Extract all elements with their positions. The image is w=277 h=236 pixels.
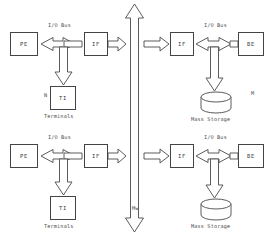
- marker-m: M: [251, 90, 254, 96]
- node-label: BE: [247, 153, 255, 159]
- node-if-bottom-left[interactable]: IF: [84, 144, 108, 168]
- node-label: IF: [178, 41, 186, 47]
- node-ti-bottom[interactable]: TI: [50, 196, 76, 220]
- bus-label-io-top-left: I/O Bus: [48, 22, 71, 28]
- bus-label-io-bottom-right: I/O Bus: [204, 134, 227, 140]
- node-label: IF: [92, 41, 100, 47]
- node-pe-top[interactable]: PE: [10, 32, 38, 56]
- node-label: BE: [247, 41, 255, 47]
- caption-mass-storage-bottom: Mass Storage: [191, 223, 230, 229]
- mass-storage-cylinder-bottom: [201, 199, 231, 220]
- node-if-top-right[interactable]: IF: [170, 32, 194, 56]
- central-memory-bus-arrow: [126, 4, 144, 232]
- bus-arrow-top-right: [196, 38, 238, 92]
- diagram-canvas: PE IF IF BE TI PE IF IF BE TI I/O Bus I/…: [0, 0, 277, 236]
- node-label: IF: [92, 153, 100, 159]
- node-be-bottom[interactable]: BE: [238, 144, 264, 168]
- node-pe-bottom[interactable]: PE: [10, 144, 38, 168]
- diagram-connectors-layer: [0, 0, 277, 236]
- caption-terminals-top: Terminals: [44, 113, 73, 119]
- bus-label-io-top-right: I/O Bus: [204, 22, 227, 28]
- node-if-bottom-right[interactable]: IF: [170, 144, 194, 168]
- connector-bus-to-if-bottom-right: [144, 149, 169, 163]
- node-ti-top[interactable]: TI: [50, 86, 76, 110]
- bus-arrow-top-left: [41, 37, 82, 85]
- caption-terminals-bottom: Terminals: [44, 223, 73, 229]
- bus-label-io-bottom-left: I/O Bus: [48, 134, 71, 140]
- node-label: PE: [20, 41, 28, 47]
- caption-memory-bus: Mw: [132, 205, 139, 211]
- node-if-top-left[interactable]: IF: [84, 32, 108, 56]
- caption-mass-storage-top: Mass Storage: [191, 116, 230, 122]
- bus-arrow-bottom-right: [196, 150, 238, 199]
- node-label: IF: [178, 153, 186, 159]
- marker-n: N: [44, 92, 47, 98]
- node-label: TI: [59, 95, 67, 101]
- node-be-top[interactable]: BE: [238, 32, 264, 56]
- connector-if-bottom-left-to-bus: [108, 149, 126, 163]
- connector-bus-to-if-top-right: [144, 37, 169, 51]
- connector-if-top-left-to-bus: [108, 37, 126, 51]
- mass-storage-cylinder-top: [201, 92, 231, 113]
- node-label: TI: [59, 205, 67, 211]
- bus-arrow-bottom-left: [41, 150, 82, 196]
- node-label: PE: [20, 153, 28, 159]
